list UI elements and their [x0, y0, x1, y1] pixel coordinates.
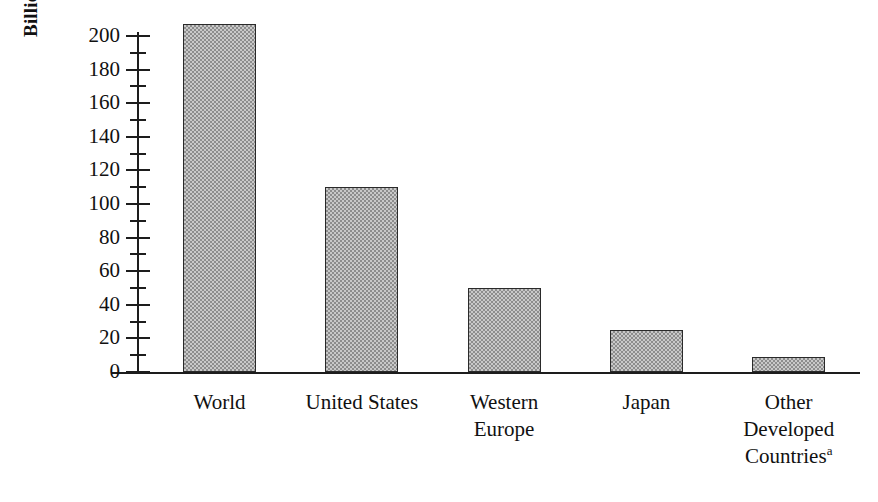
y-tick-major	[126, 237, 150, 239]
y-tick-minor	[130, 354, 146, 356]
y-tick-label: 20	[52, 327, 120, 348]
y-tick-major	[126, 371, 150, 373]
y-tick-label-text: 160	[64, 92, 120, 113]
y-tick-label-text: 20	[64, 327, 120, 348]
y-tick-minor	[130, 253, 146, 255]
y-tick-minor	[130, 85, 146, 87]
x-axis-label-line: Countriesa	[679, 443, 878, 470]
y-tick-minor	[130, 119, 146, 121]
y-tick-label-text: 120	[64, 159, 120, 180]
x-axis-label-line: Other	[679, 389, 878, 416]
y-tick-major	[126, 270, 150, 272]
y-tick-label: 180	[52, 59, 120, 80]
y-tick-label-text: 80	[64, 227, 120, 248]
y-tick-major	[126, 304, 150, 306]
y-tick-major	[126, 102, 150, 104]
bar	[468, 288, 541, 372]
y-tick-label-text: 100	[64, 193, 120, 214]
y-tick-label: 140	[52, 126, 120, 147]
y-tick-label: 200	[52, 25, 120, 46]
y-tick-minor	[130, 321, 146, 323]
y-tick-label: 0	[52, 361, 120, 382]
x-axis-line	[112, 372, 860, 374]
bar	[183, 24, 256, 372]
x-axis-label-line: Europe	[394, 416, 614, 443]
y-tick-label-text: 40	[64, 294, 120, 315]
y-tick-minor	[130, 186, 146, 188]
bar	[325, 187, 398, 372]
y-tick-major	[126, 203, 150, 205]
y-tick-minor	[130, 153, 146, 155]
y-tick-minor	[130, 220, 146, 222]
y-tick-label: 100	[52, 193, 120, 214]
y-tick-label: 40	[52, 294, 120, 315]
y-tick-major	[126, 337, 150, 339]
y-tick-label: 60	[52, 260, 120, 281]
y-tick-label-text: 140	[64, 126, 120, 147]
y-axis-title: Billions of US dollars	[14, 0, 48, 94]
y-tick-label: 80	[52, 227, 120, 248]
x-axis-label-line: Developed	[679, 416, 878, 443]
y-tick-minor	[130, 52, 146, 54]
y-tick-label-text: 200	[64, 25, 120, 46]
y-tick-major	[126, 35, 150, 37]
y-tick-label-text: 60	[64, 260, 120, 281]
y-tick-major	[126, 136, 150, 138]
y-tick-label: 120	[52, 159, 120, 180]
x-axis-label: OtherDevelopedCountriesa	[679, 389, 878, 470]
bar	[610, 330, 683, 372]
footnote-marker: a	[827, 443, 833, 458]
y-tick-minor	[130, 287, 146, 289]
bar	[752, 357, 825, 372]
y-tick-major	[126, 169, 150, 171]
y-tick-label: 160	[52, 92, 120, 113]
y-tick-label-text: 180	[64, 59, 120, 80]
bar-chart: Billions of US dollars 02040608010012014…	[0, 0, 878, 502]
y-tick-major	[126, 69, 150, 71]
y-tick-label-text: 0	[64, 361, 120, 382]
